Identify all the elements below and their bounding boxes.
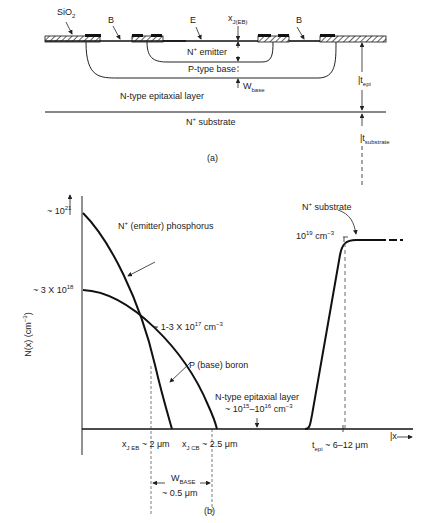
base-contact-right-label: B (296, 16, 302, 25)
t-substrate-label: |tsubstrate (360, 134, 390, 143)
substrate-label: N+ substrate (186, 118, 236, 127)
t-epi-mark: tepi ~ 6–12 μm (312, 441, 368, 450)
w-base-label: Wbase (243, 82, 265, 91)
w-base-mark: WBASE (171, 474, 196, 483)
base-region-label: P-type base (188, 65, 236, 74)
epi-layer-label: N-type epitaxial layer (120, 92, 204, 101)
crossing-label: ~ 1-3 X 1017 cm−3 (153, 323, 223, 332)
caption-b: (b) (204, 507, 215, 516)
epi-concentration: ~ 1015–1016 cm−3 (225, 405, 293, 414)
w-base-value: ~ 0.5 μm (162, 489, 197, 498)
xj-eb-mark: xJ EB ~ 2 μm (122, 440, 170, 449)
y-tick-mid: ~ 3 X 1018 (33, 286, 73, 295)
t-epi-label: |tepi (358, 76, 371, 85)
base-curve-label: P (base) boron (189, 361, 248, 370)
substrate-level: 1019 cm−3 (296, 232, 334, 241)
substrate-curve (305, 240, 378, 429)
emitter-phosphorus-curve (83, 213, 172, 429)
caption-a: (a) (207, 154, 218, 163)
sio2-label: SiO2 (57, 8, 75, 17)
emitter-curve-label: N+ (emitter) phosphorus (118, 222, 214, 231)
xj-eb-label: xJ(EB) (228, 14, 248, 23)
substrate-annotation: N+ substrate (302, 203, 352, 212)
doping-plot (70, 195, 413, 515)
y-tick-top: ~ 1021 (47, 207, 71, 216)
epi-layer-annotation: N-type epitaxial layer (215, 393, 299, 402)
xj-cb-mark: xJ CB ~ 2.5 μm (182, 440, 237, 449)
emitter-region-label: N+ emitter (187, 48, 227, 57)
emitter-contact-label: E (190, 16, 196, 25)
base-contact-left-label: B (108, 16, 114, 25)
y-axis-label: N(x) (cm−3) (24, 305, 33, 365)
x-axis-label: |x (390, 432, 397, 441)
